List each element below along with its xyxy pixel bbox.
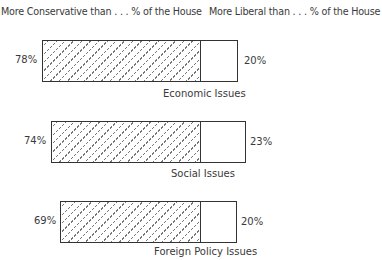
liberal-pct-foreign: 20% bbox=[241, 216, 263, 227]
conservative-pct-social: 74% bbox=[24, 135, 46, 146]
bar-foreign-policy bbox=[60, 201, 237, 243]
bar-segment-conservative bbox=[52, 122, 201, 162]
bar-social bbox=[51, 121, 246, 163]
header-liberal: More Liberal than . . . % of the House bbox=[209, 6, 380, 17]
bar-segment-conservative bbox=[61, 202, 201, 242]
header-conservative: More Conservative than . . . % of the Ho… bbox=[1, 6, 202, 17]
category-label-foreign: Foreign Policy Issues bbox=[154, 246, 257, 257]
conservative-pct-foreign: 69% bbox=[34, 215, 56, 226]
category-label-social: Social Issues bbox=[171, 168, 235, 179]
bar-economic bbox=[42, 40, 238, 82]
bar-segment-conservative bbox=[43, 41, 201, 81]
liberal-pct-economic: 20% bbox=[244, 55, 266, 66]
liberal-pct-social: 23% bbox=[250, 136, 272, 147]
conservative-pct-economic: 78% bbox=[15, 54, 37, 65]
category-label-economic: Economic Issues bbox=[163, 88, 246, 99]
